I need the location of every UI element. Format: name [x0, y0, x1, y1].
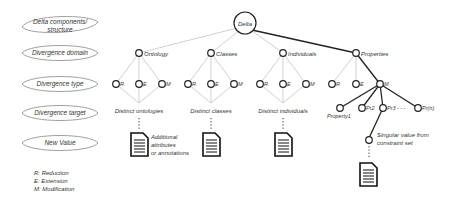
svg-text:E: E	[143, 81, 147, 87]
document-icon	[275, 133, 292, 156]
legend-row-label: New Value	[44, 139, 76, 146]
property-label: Pr(n)	[422, 105, 434, 111]
thin-connectors	[116, 26, 356, 103]
key-reduction: R: Reduction	[34, 170, 69, 176]
legend-row-label: Divergence domain	[32, 49, 88, 57]
svg-text:R: R	[120, 81, 124, 87]
legend-row-label: Delta components/	[33, 18, 88, 26]
target-label: Distinct ontologies	[115, 108, 164, 114]
svg-text:M: M	[310, 81, 315, 87]
property-label: Pr2	[366, 105, 375, 111]
annotation-label: or annotations	[151, 150, 189, 156]
domain-label: Individuals	[288, 51, 316, 57]
domain-label: Properties	[361, 51, 388, 57]
legend-row-label: Divergence target	[34, 109, 86, 117]
svg-text:M: M	[384, 81, 389, 87]
property-label: Pr3 - - -	[387, 105, 406, 111]
svg-text:E: E	[360, 81, 364, 87]
legend-row-label: structure	[47, 26, 73, 33]
delta-diagram: Delta components/ structure Divergence d…	[0, 0, 451, 208]
domain-label: Classes	[216, 51, 237, 57]
annotation-label: Additional	[150, 134, 178, 140]
singular-value-label: constraint set	[377, 140, 413, 146]
document-icon	[203, 133, 220, 156]
target-label: Distinct classes	[190, 108, 231, 114]
legend-row-label: Divergence type	[37, 80, 84, 88]
root-label: Delta	[238, 21, 253, 27]
svg-text:E: E	[287, 81, 291, 87]
document-icon	[131, 133, 148, 156]
key-extension: E: Extension	[34, 178, 68, 184]
target-label: Distinct individuals	[258, 108, 307, 114]
domain-label: Ontology	[144, 51, 169, 57]
svg-text:R: R	[192, 81, 196, 87]
svg-text:M: M	[238, 81, 243, 87]
nodes	[113, 50, 422, 144]
svg-text:M: M	[166, 81, 171, 87]
svg-text:R: R	[336, 81, 340, 87]
svg-text:E: E	[215, 81, 219, 87]
singular-value-label: Singular value from	[377, 132, 429, 138]
property-label: Property1	[327, 113, 351, 119]
key-modification: M: Modification	[34, 186, 75, 192]
annotation-label: attributes	[151, 142, 176, 148]
svg-text:R: R	[264, 81, 268, 87]
document-icons	[131, 133, 377, 186]
document-icon	[360, 163, 377, 186]
